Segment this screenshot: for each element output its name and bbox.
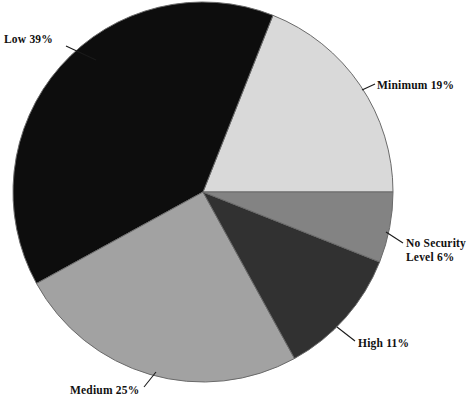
- pie-label-no-security-level: No SecurityLevel 6%: [406, 237, 466, 264]
- pie-slices-group: [13, 2, 393, 382]
- pie-label-minimum: Minimum 19%: [377, 79, 454, 93]
- leader-line-high: [337, 327, 355, 341]
- pie-chart-figure: Low 39% Minimum 19% No SecurityLevel 6% …: [0, 0, 467, 409]
- pie-label-high: High 11%: [358, 337, 409, 351]
- pie-label-no-security-level-line1: No Security: [406, 237, 466, 249]
- pie-label-medium: Medium 25%: [70, 384, 139, 398]
- leader-line-no-security-level: [386, 232, 403, 243]
- leader-line-minimum: [362, 84, 375, 90]
- pie-label-no-security-level-line2: Level 6%: [406, 251, 455, 263]
- pie-label-low: Low 39%: [4, 33, 53, 47]
